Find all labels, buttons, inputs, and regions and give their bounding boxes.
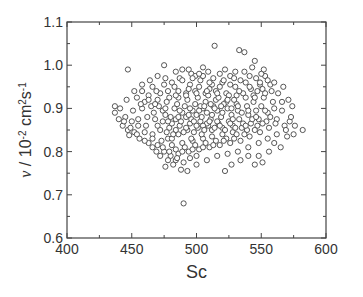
data-point <box>239 110 244 115</box>
data-point <box>235 104 240 109</box>
data-point <box>197 71 202 76</box>
data-point <box>180 78 185 83</box>
data-point <box>153 117 158 122</box>
data-point <box>200 65 205 70</box>
data-point <box>154 149 159 154</box>
data-point <box>242 50 247 55</box>
data-point <box>193 102 198 107</box>
x-tick-label: 450 <box>120 241 144 257</box>
data-point <box>158 153 163 158</box>
data-point <box>246 153 251 158</box>
data-point <box>252 162 257 167</box>
data-point <box>286 97 291 102</box>
data-point <box>186 112 191 117</box>
data-point <box>127 133 132 138</box>
data-point <box>128 125 133 130</box>
data-point <box>238 158 243 163</box>
data-point <box>194 91 199 96</box>
data-point <box>257 80 262 85</box>
data-point <box>187 106 192 111</box>
data-point <box>261 67 266 72</box>
data-point <box>199 114 204 119</box>
y-tick-label: 0.6 <box>44 230 64 246</box>
data-point <box>256 153 261 158</box>
data-points <box>112 43 305 206</box>
y-tick-label: 0.7 <box>44 187 64 203</box>
data-point <box>272 106 277 111</box>
data-point <box>150 136 155 141</box>
data-point <box>200 145 205 150</box>
data-point <box>238 78 243 83</box>
data-point <box>202 104 207 109</box>
data-point <box>175 156 180 161</box>
data-point <box>208 102 213 107</box>
x-tick-label: 550 <box>250 241 274 257</box>
data-point <box>276 91 281 96</box>
data-point <box>147 78 152 83</box>
data-point <box>178 167 183 172</box>
data-point <box>232 97 237 102</box>
data-point <box>154 89 159 94</box>
data-point <box>182 104 187 109</box>
data-point <box>167 149 172 154</box>
data-point <box>151 110 156 115</box>
data-point <box>212 43 217 48</box>
data-point <box>163 76 168 81</box>
data-point <box>191 119 196 124</box>
data-point <box>150 145 155 150</box>
data-point <box>263 91 268 96</box>
data-point <box>145 114 150 119</box>
data-point <box>190 147 195 152</box>
data-point <box>197 108 202 113</box>
data-point <box>217 84 222 89</box>
data-point <box>207 80 212 85</box>
data-point <box>143 123 148 128</box>
data-point <box>138 102 143 107</box>
data-point <box>274 132 279 137</box>
data-point <box>228 121 233 126</box>
x-tick-label: 500 <box>185 241 209 257</box>
data-point <box>217 71 222 76</box>
data-point <box>163 164 168 169</box>
data-point <box>136 117 141 122</box>
data-point <box>260 160 265 165</box>
x-tick-label: 600 <box>314 241 338 257</box>
data-point <box>229 162 234 167</box>
data-point <box>112 110 117 115</box>
data-point <box>118 106 123 111</box>
data-point <box>173 147 178 152</box>
data-point <box>112 104 117 109</box>
data-point <box>206 69 211 74</box>
data-point <box>222 127 227 132</box>
data-point <box>246 108 251 113</box>
data-point <box>288 114 293 119</box>
data-point <box>211 76 216 81</box>
data-point <box>162 63 167 68</box>
data-point <box>220 110 225 115</box>
data-point <box>142 138 147 143</box>
data-point <box>215 153 220 158</box>
scatter-chart: 400450500550600 0.60.70.80.91.01.1 Sc ν … <box>0 0 363 297</box>
data-point <box>222 168 227 173</box>
data-point <box>202 127 207 132</box>
data-point <box>124 97 129 102</box>
data-point <box>259 104 264 109</box>
data-point <box>238 138 243 143</box>
data-point <box>171 162 176 167</box>
data-point <box>242 69 247 74</box>
data-point <box>173 69 178 74</box>
data-point <box>211 143 216 148</box>
data-point <box>191 130 196 135</box>
data-point <box>130 108 135 113</box>
data-point <box>184 93 189 98</box>
y-tick-labels: 0.60.70.80.91.01.1 <box>44 14 64 246</box>
data-point <box>173 93 178 98</box>
data-point <box>242 132 247 137</box>
data-point <box>285 134 290 139</box>
data-point <box>155 73 160 78</box>
data-point <box>219 104 224 109</box>
data-point <box>254 114 259 119</box>
data-point <box>209 112 214 117</box>
data-point <box>171 132 176 137</box>
data-point <box>204 89 209 94</box>
